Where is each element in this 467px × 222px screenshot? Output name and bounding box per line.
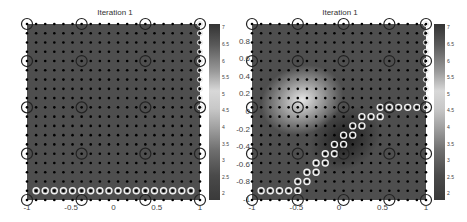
colorbar-tick-label: 4 [447,124,450,130]
colorbar-tick-label: 6.5 [447,41,454,47]
y-tick-label: -0.2 [236,125,250,134]
right-panel: Iteration 1 0.80.60.40.20-0.2-0.4-0.6-0.… [0,0,467,222]
colorbar-tick-label: 7 [447,24,450,30]
colorbar-tick-label: 5 [447,91,450,97]
colorbar-tick-label: 6 [447,58,450,64]
right-heatmap [252,24,426,200]
y-tick-label: -0.6 [236,160,250,169]
x-tick-label: -0.5 [290,203,302,212]
colorbar-tick-label: 3 [447,157,450,163]
x-tick-label: 0 [333,203,345,212]
y-tick-label: 0.4 [239,72,250,81]
right-colorbar [434,24,445,200]
right-plot-title: Iteration 1 [285,8,395,17]
y-tick-label: 0.2 [239,89,250,98]
x-tick-label: -1 [246,203,258,212]
y-tick-label: 0 [246,107,250,116]
colorbar-tick-label: 2 [447,190,450,196]
x-tick-label: 0.5 [377,203,389,212]
y-tick-label: 0.6 [239,54,250,63]
x-tick-label: 1 [420,203,432,212]
y-tick-label: -0.8 [236,177,250,186]
colorbar-tick-label: 2.5 [447,174,454,180]
colorbar-tick-label: 3.5 [447,141,454,147]
y-tick-label: 0.8 [239,37,250,46]
colorbar-tick-label: 4.5 [447,107,454,113]
colorbar-tick-label: 5.5 [447,74,454,80]
y-tick-label: -0.4 [236,142,250,151]
